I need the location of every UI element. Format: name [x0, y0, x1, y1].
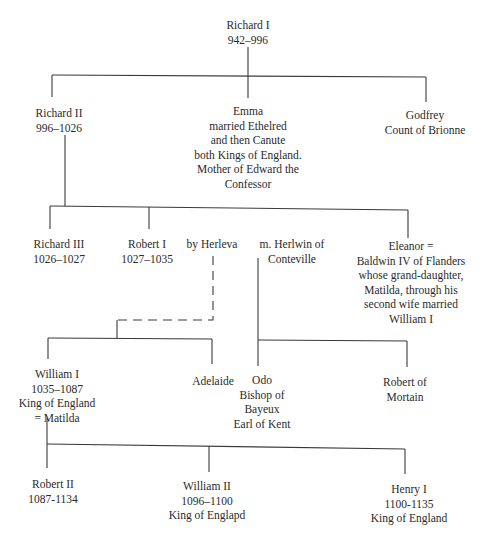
name: Richard I — [226, 18, 269, 33]
spouse: = Matilda — [19, 411, 96, 426]
node-odo: Odo Bishop of Bayeux Earl of Kent — [234, 373, 291, 431]
node-robert-i: Robert I 1027–1035 — [121, 237, 173, 266]
place: Conteville — [260, 252, 325, 267]
node-robert-mortain: Robert of Mortain — [383, 375, 427, 404]
note: and then Canute — [194, 133, 301, 148]
dates: 1027–1035 — [121, 252, 173, 267]
note: Matilda, through his — [357, 283, 466, 298]
title: Earl of Kent — [234, 417, 291, 432]
node-robert-ii: Robert II 1087-1134 — [28, 477, 77, 506]
bar-william-adelaide — [48, 338, 212, 339]
node-richard-ii: Richard II 996–1026 — [36, 106, 83, 135]
node-herlwin: m. Herlwin of Conteville — [260, 237, 325, 266]
node-william-i: William I 1035–1087 King of England = Ma… — [19, 367, 96, 425]
node-richard-iii: Richard III 1026–1027 — [33, 237, 85, 266]
name: Odo — [234, 373, 291, 388]
title: King of England — [19, 396, 96, 411]
name: by Herleva — [187, 237, 238, 252]
node-godfrey: Godfrey Count of Brionne — [385, 108, 466, 137]
name: Richard III — [33, 237, 85, 252]
node-herleva: by Herleva — [187, 237, 238, 252]
dates: 1035–1087 — [19, 382, 96, 397]
title: King of Englapd — [169, 508, 246, 523]
node-emma: Emma married Ethelred and then Canute bo… — [194, 104, 301, 191]
name: Henry I — [371, 482, 448, 497]
bar-gen3 — [50, 206, 408, 210]
dates: 1100-1135 — [371, 497, 448, 512]
node-eleanor: Eleanor = Baldwin IV of Flanders whose g… — [357, 239, 466, 326]
name: Godfrey — [385, 108, 466, 123]
dates: 942–996 — [226, 33, 269, 48]
name: Eleanor = — [357, 239, 466, 254]
name: m. Herlwin of — [260, 237, 325, 252]
note: second wife married — [357, 297, 466, 312]
node-henry-i: Henry I 1100-1135 King of England — [371, 482, 448, 526]
name: Emma — [194, 104, 301, 119]
note: William I — [357, 312, 466, 327]
note: both Kings of England. — [194, 148, 301, 163]
name: Robert of — [383, 375, 427, 390]
note: whose grand-daughter, — [357, 268, 466, 283]
name: Richard II — [36, 106, 83, 121]
note: Confessor — [194, 177, 301, 192]
note: married Ethelred — [194, 119, 301, 134]
name: Robert II — [28, 477, 77, 492]
bar-gen2 — [52, 75, 426, 77]
bar-odo-robert — [258, 340, 407, 341]
title: Count of Brionne — [385, 123, 466, 138]
dates: 1096–1100 — [169, 494, 246, 509]
node-adelaide: Adelaide — [192, 374, 234, 389]
bar-gen5 — [47, 444, 405, 449]
title: King of England — [371, 511, 448, 526]
name: William I — [19, 367, 96, 382]
title: Bishop of — [234, 388, 291, 403]
dates: 996–1026 — [36, 121, 83, 136]
place: Mortain — [383, 390, 427, 405]
name: Robert I — [121, 237, 173, 252]
name: William II — [169, 479, 246, 494]
title: Bayeux — [234, 402, 291, 417]
name: Adelaide — [192, 374, 234, 389]
note: Baldwin IV of Flanders — [357, 254, 466, 269]
dates: 1087-1134 — [28, 492, 77, 507]
node-richard-i: Richard I 942–996 — [226, 18, 269, 47]
note: Mother of Edward the — [194, 162, 301, 177]
dates: 1026–1027 — [33, 252, 85, 267]
node-william-ii: William II 1096–1100 King of Englapd — [169, 479, 246, 523]
